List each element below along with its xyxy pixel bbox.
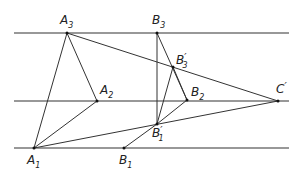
point-B3 xyxy=(156,32,159,35)
label-A3: A3 xyxy=(59,13,73,30)
label-B1p: B′1 xyxy=(152,125,164,143)
point-B2 xyxy=(186,99,189,102)
segment-A3-A1 xyxy=(34,33,67,148)
point-Cp xyxy=(277,100,280,103)
label-B3: B3 xyxy=(152,13,165,30)
segment-B3p-B1p xyxy=(157,67,173,124)
label-A1: A1 xyxy=(26,153,40,170)
segment-A2-A1 xyxy=(34,101,97,148)
label-B2: B2 xyxy=(191,85,204,102)
label-A2: A2 xyxy=(99,83,113,100)
point-B1 xyxy=(123,147,126,150)
label-B3p: B′3 xyxy=(176,52,188,70)
segment-B3p-B2 xyxy=(173,67,187,100)
segment-B2-B1p xyxy=(157,100,187,124)
point-A2 xyxy=(96,100,99,103)
label-Cp: C′ xyxy=(276,81,287,96)
point-A3 xyxy=(66,32,69,35)
point-A1 xyxy=(33,147,36,150)
segment-A3-A2 xyxy=(67,33,97,101)
homothety-diagram: A3A2A1B3B′3B2B′1B1C′ xyxy=(0,0,302,176)
point-B3p xyxy=(172,66,175,69)
label-B1: B1 xyxy=(119,153,132,170)
